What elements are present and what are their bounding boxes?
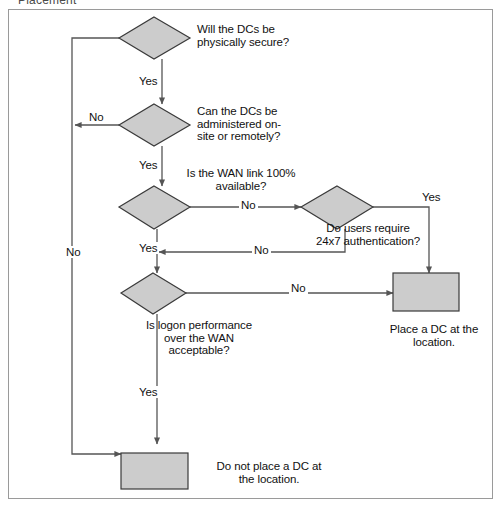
diagram-frame: Will the DCs be physically secure? Can t… bbox=[8, 9, 493, 499]
label-decision-q3: Is the WAN link 100% available? bbox=[161, 167, 321, 192]
label-terminal-place-dc: Place a DC at the location. bbox=[381, 323, 487, 348]
flowchart-page: Placement bbox=[0, 0, 503, 517]
edge-label-q3-no: No bbox=[239, 199, 258, 211]
decision-q3 bbox=[119, 186, 190, 229]
edge-label-return-no: No bbox=[64, 246, 83, 258]
edge-label-q3-yes: Yes bbox=[137, 242, 159, 254]
edge-label-q4-yes: Yes bbox=[420, 191, 442, 203]
label-decision-q4: Do users require 24x7 authentication? bbox=[293, 222, 443, 247]
label-terminal-do-not-place-dc: Do not place a DC at the location. bbox=[199, 460, 339, 485]
label-decision-q2: Can the DCs be administered on- site or … bbox=[197, 105, 347, 143]
edge-label-q1-yes: Yes bbox=[137, 75, 159, 87]
edge-label-q1-no: No bbox=[87, 111, 106, 123]
edge-label-q5-no: No bbox=[289, 282, 308, 294]
figure-caption: Placement bbox=[0, 0, 503, 9]
edge-label-q4-no: No bbox=[252, 244, 271, 256]
decision-q2 bbox=[119, 104, 190, 146]
decision-q1 bbox=[119, 17, 190, 59]
flow-shapes bbox=[119, 17, 459, 489]
terminal-do-not-place-dc bbox=[121, 453, 188, 489]
figure-caption-text: Placement bbox=[18, 0, 77, 7]
label-decision-q1: Will the DCs be physically secure? bbox=[197, 23, 347, 48]
edge-label-q5-yes: Yes bbox=[137, 386, 159, 398]
terminal-place-dc bbox=[393, 273, 459, 311]
edge-label-q2-yes: Yes bbox=[137, 159, 159, 171]
decision-q5 bbox=[121, 273, 186, 314]
label-decision-q5: Is logon performance over the WAN accept… bbox=[121, 319, 277, 357]
